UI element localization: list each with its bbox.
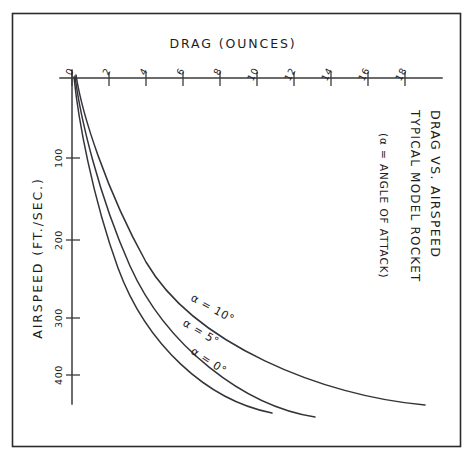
xtick-label: 0	[63, 66, 76, 77]
x-axis-title: DRAG (OUNCES)	[169, 36, 296, 51]
ytick-label: 300	[53, 308, 64, 328]
series-label-alpha-0: α = 0°	[188, 345, 229, 378]
drag-vs-airspeed-chart: 0 2 4 6 8 10 12 14 16 18 100 200 300 400…	[0, 0, 475, 459]
ytick-label: 400	[53, 365, 64, 385]
series-label-alpha-5: α = 5°	[180, 316, 221, 348]
chart-title: DRAG VS. AIRSPEED	[428, 110, 443, 258]
xtick-label: 2	[100, 66, 113, 77]
curve-alpha-10	[76, 75, 425, 405]
ytick-label: 200	[53, 230, 64, 250]
curve-alpha-0	[74, 77, 272, 413]
xtick-label: 12	[282, 66, 298, 83]
xtick-label: 4	[137, 66, 150, 77]
ytick-label: 100	[53, 148, 64, 168]
y-axis-tick-labels: 100 200 300 400	[53, 148, 64, 385]
chart-subtitle: TYPICAL MODEL ROCKET	[408, 109, 422, 283]
xtick-label: 16	[356, 66, 372, 83]
x-axis-tick-labels: 0 2 4 6 8 10 12 14 16 18	[63, 66, 409, 83]
y-axis-ticks	[66, 158, 80, 375]
x-axis-ticks	[72, 72, 405, 86]
xtick-label: 6	[174, 66, 187, 77]
xtick-label: 8	[211, 66, 224, 77]
xtick-label: 18	[393, 66, 409, 83]
xtick-label: 14	[319, 66, 335, 83]
xtick-label: 10	[245, 66, 261, 83]
y-axis-title: AIRSPEED (FT./SEC.)	[30, 177, 45, 339]
chart-note: (α = ANGLE OF ATTACK)	[378, 133, 390, 279]
